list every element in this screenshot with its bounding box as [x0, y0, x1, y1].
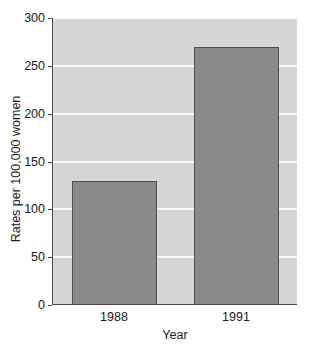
- y-axis-tick-label: 300: [24, 11, 45, 25]
- y-axis-tick-mark: [48, 114, 52, 115]
- y-axis-tick-label: 100: [24, 202, 45, 216]
- plot-area: [53, 18, 297, 305]
- bar-1988[interactable]: [72, 181, 157, 305]
- x-axis-tick-label: 1991: [222, 310, 250, 324]
- y-axis-line: [52, 18, 53, 305]
- y-axis-tick-mark: [48, 305, 52, 306]
- chart-title-cropped: [0, 0, 311, 7]
- x-axis-title: Year: [53, 328, 297, 342]
- y-axis-tick-label: 50: [31, 250, 45, 264]
- x-axis-tick-label: 1988: [100, 310, 128, 324]
- y-axis-tick-label: 200: [24, 107, 45, 121]
- y-axis-tick-mark: [48, 66, 52, 67]
- x-axis-line: [53, 304, 297, 305]
- y-axis-tick-mark: [48, 257, 52, 258]
- y-axis-tick-label: 0: [38, 298, 45, 312]
- y-axis-tick-label: 250: [24, 59, 45, 73]
- y-axis-tick-mark: [48, 209, 52, 210]
- y-axis-tick-label: 150: [24, 155, 45, 169]
- y-axis-title: Rates per 100,000 women: [9, 89, 23, 249]
- y-axis-tick-mark: [48, 18, 52, 19]
- y-axis-tick-mark: [48, 162, 52, 163]
- bar-1991[interactable]: [194, 47, 279, 305]
- gridline: [53, 17, 297, 19]
